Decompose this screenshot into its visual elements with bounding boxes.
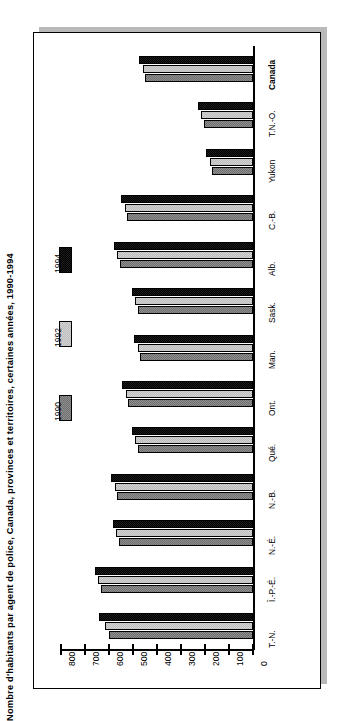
bar-1994-Sask. — [132, 288, 253, 296]
bar-1992-C.-B. — [125, 204, 253, 212]
bar-1992-N.-É. — [116, 529, 253, 537]
bar-1994-Ont. — [122, 381, 253, 389]
bar-1994-Qué. — [132, 427, 253, 435]
bar-1990-Yukon — [212, 167, 253, 175]
bar-1990-Man. — [140, 353, 253, 361]
bar-1992-Î.-P.-É. — [98, 576, 253, 584]
bar-1990-Sask. — [138, 306, 253, 314]
bar-1992-T.-N. — [105, 622, 253, 630]
bar-1994-N.-É. — [113, 520, 253, 528]
bar-1990-C.-B. — [127, 213, 253, 221]
chart-figure: Nombre d'habitants par agent de police, … — [0, 0, 341, 721]
bar-1994-Î.-P.-É. — [95, 567, 253, 575]
value-axis-tick — [180, 644, 181, 655]
bar-1994-Canada — [139, 56, 253, 64]
legend-entry-1990: 1990 — [36, 395, 82, 469]
bar-1990-T.N.-O. — [204, 120, 253, 128]
bar-1990-Ont. — [128, 399, 253, 407]
bar-1990-N.-B. — [117, 492, 253, 500]
bar-1992-Qué. — [135, 436, 253, 444]
bar-1994-Alb. — [114, 242, 253, 250]
bar-1990-Î.-P.-É. — [101, 585, 253, 593]
bar-1990-Canada — [145, 74, 253, 82]
value-axis-tick — [228, 644, 229, 655]
bar-1992-N.-B. — [115, 483, 253, 491]
bar-1992-Sask. — [135, 297, 253, 305]
bar-1992-Man. — [138, 344, 253, 352]
value-axis-tick-label: 700 — [90, 626, 102, 666]
legend-label-1994: 1994 — [52, 213, 65, 273]
bar-1990-Qué. — [138, 445, 253, 453]
bar-1994-N.-B. — [111, 474, 253, 482]
bar-1990-N.-É. — [119, 538, 253, 546]
legend-entry-1994: 1994 — [36, 247, 82, 321]
value-axis-tick — [60, 644, 61, 655]
value-axis-tick — [252, 644, 253, 655]
bar-1992-Canada — [143, 65, 253, 73]
bar-1994-T.N.-O. — [198, 102, 253, 110]
value-axis-tick — [108, 644, 109, 655]
chart-title-container: Nombre d'habitants par agent de police, … — [0, 0, 24, 721]
bar-1994-Yukon — [206, 149, 253, 157]
category-label-Canada: Canada — [266, 30, 279, 90]
bar-1990-Alb. — [120, 260, 253, 268]
bar-1994-T.-N. — [99, 613, 253, 621]
value-axis-tick-label: 800 — [66, 626, 78, 666]
legend-entry-1992: 1992 — [36, 321, 82, 395]
chart-legend: 199019921994 — [36, 230, 82, 470]
category-axis-line — [253, 46, 255, 650]
page-title: Nombre d'habitants par agent de police, … — [0, 0, 20, 721]
bar-1992-Alb. — [117, 251, 253, 259]
value-axis-tick — [204, 644, 205, 655]
bar-1994-C.-B. — [121, 195, 253, 203]
bar-1990-T.-N. — [109, 631, 253, 639]
bar-1992-T.N.-O. — [201, 111, 253, 119]
bar-1992-Yukon — [210, 158, 253, 166]
value-axis-tick — [132, 644, 133, 655]
value-axis-tick — [156, 644, 157, 655]
value-axis-tick — [84, 644, 85, 655]
bar-1992-Ont. — [126, 390, 253, 398]
bar-1994-Man. — [134, 335, 253, 343]
